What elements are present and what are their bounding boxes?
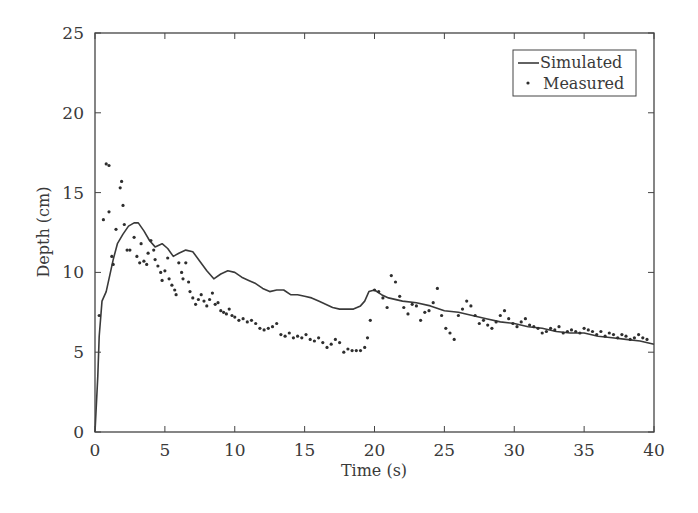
measured-point bbox=[566, 330, 569, 333]
measured-point bbox=[398, 295, 401, 298]
measured-point bbox=[599, 330, 602, 333]
measured-point bbox=[355, 349, 358, 352]
measured-point bbox=[427, 309, 430, 312]
measured-point bbox=[557, 325, 560, 328]
measured-point bbox=[246, 320, 249, 323]
measured-point bbox=[313, 339, 316, 342]
measured-point bbox=[181, 277, 184, 280]
x-tick-label: 15 bbox=[294, 440, 316, 460]
measured-point bbox=[187, 280, 190, 283]
measured-point bbox=[402, 306, 405, 309]
measured-point bbox=[202, 300, 205, 303]
measured-point bbox=[369, 319, 372, 322]
measured-point bbox=[641, 336, 644, 339]
measured-point bbox=[147, 252, 150, 255]
measured-point bbox=[553, 328, 556, 331]
measured-point bbox=[271, 325, 274, 328]
measured-point bbox=[154, 258, 157, 261]
measured-point bbox=[524, 317, 527, 320]
x-tick-label: 0 bbox=[90, 440, 101, 460]
measured-point bbox=[135, 255, 138, 258]
measured-point bbox=[140, 242, 143, 245]
measured-point bbox=[292, 336, 295, 339]
measured-point bbox=[300, 336, 303, 339]
measured-point bbox=[120, 180, 123, 183]
measured-point bbox=[145, 263, 148, 266]
measured-point bbox=[386, 306, 389, 309]
measured-point bbox=[258, 327, 261, 330]
measured-point bbox=[254, 322, 257, 325]
measured-point bbox=[304, 333, 307, 336]
x-axis-label: Time (s) bbox=[341, 461, 407, 480]
measured-point bbox=[381, 296, 384, 299]
x-axis: 0510152025303540 bbox=[90, 33, 665, 460]
y-tick-label: 25 bbox=[62, 23, 84, 43]
measured-point bbox=[114, 228, 117, 231]
measured-point bbox=[478, 322, 481, 325]
measured-point bbox=[545, 330, 548, 333]
y-tick-label: 10 bbox=[62, 262, 84, 282]
measured-point bbox=[123, 223, 126, 226]
legend-label-simulated: Simulated bbox=[540, 53, 622, 72]
measured-point bbox=[620, 333, 623, 336]
measured-point bbox=[394, 280, 397, 283]
measured-point bbox=[237, 319, 240, 322]
measured-point bbox=[342, 351, 345, 354]
measured-point bbox=[363, 346, 366, 349]
measured-point bbox=[194, 303, 197, 306]
x-tick-label: 35 bbox=[573, 440, 595, 460]
measured-point bbox=[616, 336, 619, 339]
measured-point bbox=[107, 164, 110, 167]
x-tick-label: 10 bbox=[224, 440, 246, 460]
x-tick-label: 5 bbox=[159, 440, 170, 460]
measured-point bbox=[205, 304, 208, 307]
measured-point bbox=[562, 331, 565, 334]
measured-point bbox=[121, 204, 124, 207]
measured-point bbox=[495, 320, 498, 323]
measured-point bbox=[250, 319, 253, 322]
measured-point bbox=[138, 261, 141, 264]
measured-point bbox=[583, 327, 586, 330]
measured-point bbox=[474, 314, 477, 317]
measured-point bbox=[570, 328, 573, 331]
measured-point bbox=[126, 249, 129, 252]
measured-point bbox=[490, 327, 493, 330]
measured-point bbox=[156, 264, 159, 267]
measured-point bbox=[578, 331, 581, 334]
measured-point bbox=[390, 274, 393, 277]
measured-point bbox=[275, 322, 278, 325]
measured-point bbox=[574, 330, 577, 333]
legend: Simulated Measured bbox=[513, 50, 636, 96]
measured-point bbox=[211, 292, 214, 295]
measured-point bbox=[511, 322, 514, 325]
measured-point bbox=[149, 239, 152, 242]
measured-point bbox=[219, 309, 222, 312]
measured-point bbox=[624, 335, 627, 338]
measured-point bbox=[612, 333, 615, 336]
measured-point bbox=[334, 338, 337, 341]
measured-point bbox=[432, 301, 435, 304]
measured-point bbox=[604, 335, 607, 338]
y-tick-label: 15 bbox=[62, 183, 84, 203]
measured-point bbox=[366, 336, 369, 339]
measured-point bbox=[142, 260, 145, 263]
measured-point bbox=[633, 336, 636, 339]
measured-point bbox=[457, 314, 460, 317]
measured-point bbox=[208, 298, 211, 301]
measured-point bbox=[191, 296, 194, 299]
plot-area bbox=[95, 162, 654, 432]
measured-point bbox=[629, 338, 632, 341]
measured-point bbox=[587, 328, 590, 331]
measured-point bbox=[175, 293, 178, 296]
measured-point bbox=[515, 325, 518, 328]
measured-point bbox=[163, 269, 166, 272]
measured-point bbox=[166, 256, 169, 259]
measured-point bbox=[532, 325, 535, 328]
measured-point bbox=[444, 327, 447, 330]
measured-point bbox=[436, 287, 439, 290]
measured-point bbox=[242, 317, 245, 320]
measured-point bbox=[453, 338, 456, 341]
measured-point bbox=[440, 314, 443, 317]
measured-point bbox=[184, 261, 187, 264]
measured-point bbox=[321, 341, 324, 344]
